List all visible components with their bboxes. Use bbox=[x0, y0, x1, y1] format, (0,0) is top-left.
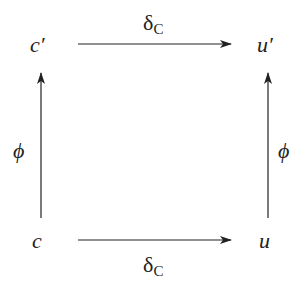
bottom-edge-label: δC bbox=[143, 252, 163, 279]
top-edge-subscript: C bbox=[153, 21, 163, 37]
node-u-prime: u′ bbox=[257, 32, 274, 57]
node-c: c bbox=[32, 228, 42, 253]
bottom-edge-symbol: δ bbox=[143, 252, 153, 277]
node-u: u bbox=[259, 228, 270, 253]
bottom-edge-subscript: C bbox=[153, 263, 163, 279]
right-edge-label: ϕ bbox=[278, 138, 289, 163]
top-edge-symbol: δ bbox=[143, 10, 153, 35]
commutative-diagram: c′ u′ c u δC δC ϕ ϕ bbox=[0, 0, 306, 284]
left-edge-label: ϕ bbox=[13, 138, 24, 163]
top-edge-label: δC bbox=[143, 10, 163, 37]
node-c-prime: c′ bbox=[30, 32, 46, 57]
